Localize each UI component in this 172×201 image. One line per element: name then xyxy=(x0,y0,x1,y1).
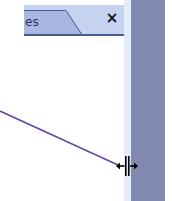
close-icon: × xyxy=(106,10,119,26)
tab-strip: es × xyxy=(24,5,124,36)
resize-horizontal-cursor-icon xyxy=(115,155,139,177)
tab-label: es xyxy=(25,15,39,29)
close-tab-button[interactable]: × xyxy=(104,10,120,26)
screen-region: es × xyxy=(0,0,172,201)
